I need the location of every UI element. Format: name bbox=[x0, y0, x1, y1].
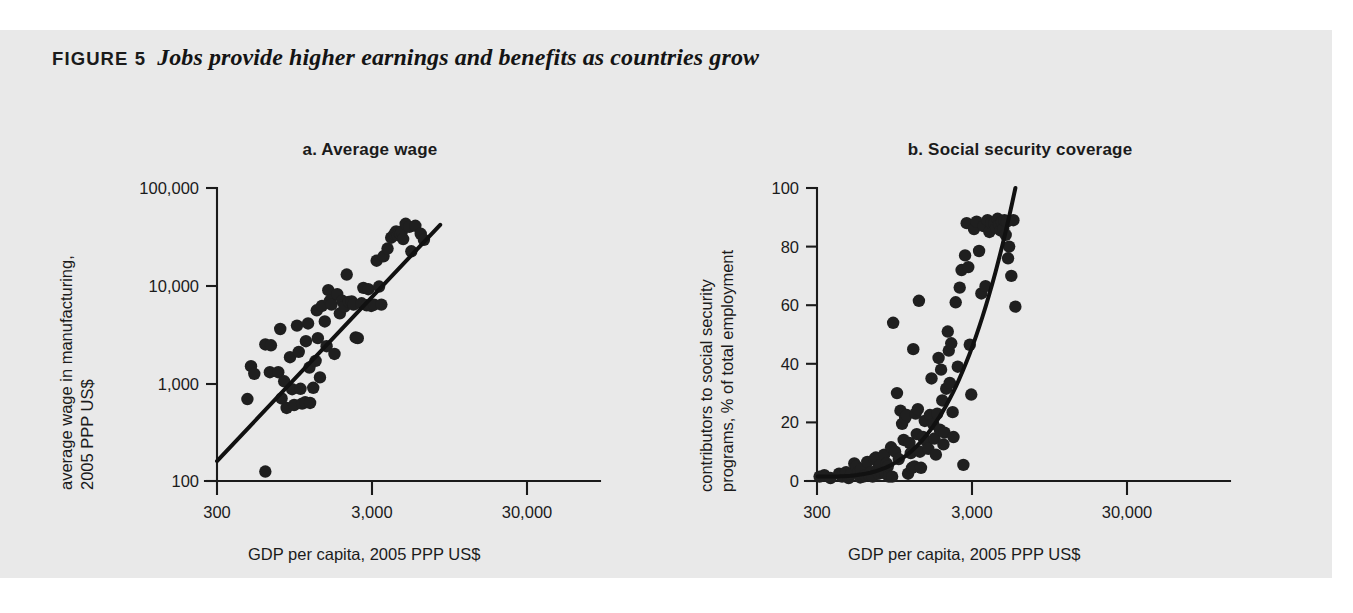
data-point bbox=[307, 382, 319, 394]
data-point bbox=[935, 363, 947, 375]
data-point bbox=[962, 261, 974, 273]
data-point bbox=[352, 332, 364, 344]
data-point bbox=[937, 438, 949, 450]
panel-a-ytick-label-10000: 10,000 bbox=[149, 277, 199, 295]
data-point bbox=[950, 296, 962, 308]
panel-b-ytick-label-40: 40 bbox=[781, 355, 799, 373]
data-point bbox=[891, 387, 903, 399]
panel-b-ytick-label-0: 0 bbox=[790, 472, 799, 490]
figure-caption: FIGURE 5Jobs provide higher earnings and… bbox=[52, 44, 759, 71]
chart-panel-a: a. Average wage average wage in manufact… bbox=[30, 120, 650, 560]
data-point bbox=[265, 339, 277, 351]
data-point bbox=[291, 319, 303, 331]
data-point bbox=[241, 393, 253, 405]
data-point bbox=[302, 317, 314, 329]
panel-b-ytick-label-100: 100 bbox=[771, 179, 799, 197]
data-point bbox=[328, 348, 340, 360]
panel-a-ytick-label-1000: 1,000 bbox=[158, 375, 199, 393]
panel-b-xtick-label-300: 300 bbox=[803, 503, 831, 521]
data-point bbox=[957, 459, 969, 471]
data-point bbox=[294, 383, 306, 395]
data-point bbox=[945, 337, 957, 349]
panel-b-plot-area: 100 80 60 40 20 0 300 3,000 30,000 bbox=[690, 120, 1310, 560]
data-point bbox=[925, 372, 937, 384]
panel-a-y-ticks bbox=[206, 188, 217, 481]
panel-b-x-ticks bbox=[817, 481, 1127, 495]
data-point bbox=[886, 470, 898, 482]
chart-panel-b: b. Social security coverage contributors… bbox=[690, 120, 1310, 560]
panel-a-trendline bbox=[217, 225, 440, 461]
data-point bbox=[946, 406, 958, 418]
data-point bbox=[397, 233, 409, 245]
panel-a-xtick-label-300: 300 bbox=[203, 503, 231, 521]
panel-b-xtick-label-30000: 30,000 bbox=[1102, 503, 1152, 521]
data-point bbox=[947, 431, 959, 443]
panel-b-x-axis-title: GDP per capita, 2005 PPP US$ bbox=[848, 545, 1080, 564]
panel-a-plot-area: 100,000 10,000 1,000 100 300 3,000 30,00… bbox=[30, 120, 650, 560]
panel-a-x-ticks bbox=[217, 481, 527, 495]
data-point bbox=[341, 268, 353, 280]
data-point bbox=[913, 295, 925, 307]
data-point bbox=[930, 448, 942, 460]
data-point bbox=[274, 323, 286, 335]
panel-b-ytick-label-60: 60 bbox=[781, 296, 799, 314]
data-point bbox=[304, 397, 316, 409]
data-point bbox=[973, 245, 985, 257]
data-point bbox=[887, 317, 899, 329]
panel-a-x-axis-title: GDP per capita, 2005 PPP US$ bbox=[248, 545, 480, 564]
data-point bbox=[259, 465, 271, 477]
data-point bbox=[965, 388, 977, 400]
data-point bbox=[381, 242, 393, 254]
panel-b-ytick-label-20: 20 bbox=[781, 413, 799, 431]
data-point bbox=[954, 281, 966, 293]
data-point bbox=[300, 335, 312, 347]
panel-b-y-ticks bbox=[806, 188, 817, 481]
panel-b-ytick-label-80: 80 bbox=[781, 238, 799, 256]
data-point bbox=[293, 346, 305, 358]
data-point bbox=[915, 462, 927, 474]
data-point bbox=[1002, 252, 1014, 264]
data-point bbox=[314, 371, 326, 383]
panel-a-ytick-label-100: 100 bbox=[171, 472, 199, 490]
data-point bbox=[932, 352, 944, 364]
data-point bbox=[1009, 300, 1021, 312]
panel-a-xtick-label-30000: 30,000 bbox=[502, 503, 552, 521]
data-point bbox=[907, 343, 919, 355]
figure-page: FIGURE 5Jobs provide higher earnings and… bbox=[0, 0, 1353, 613]
data-point bbox=[912, 403, 924, 415]
data-point bbox=[942, 325, 954, 337]
panel-a-ytick-label-100000: 100,000 bbox=[139, 179, 199, 197]
data-point bbox=[248, 368, 260, 380]
panel-a-xtick-label-3000: 3,000 bbox=[351, 503, 392, 521]
data-point bbox=[375, 298, 387, 310]
panel-b-xtick-label-3000: 3,000 bbox=[951, 503, 992, 521]
panel-a-data-points bbox=[241, 218, 430, 478]
data-point bbox=[959, 249, 971, 261]
figure-title-text: Jobs provide higher earnings and benefit… bbox=[157, 44, 759, 70]
figure-number-label: FIGURE 5 bbox=[52, 48, 146, 69]
data-point bbox=[1005, 270, 1017, 282]
data-point bbox=[319, 315, 331, 327]
